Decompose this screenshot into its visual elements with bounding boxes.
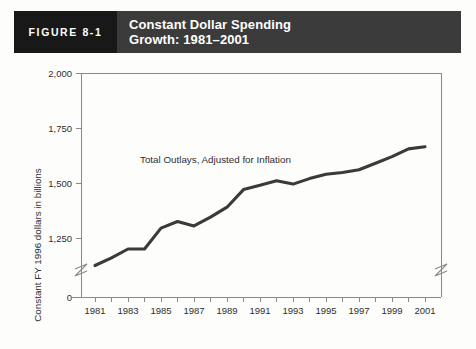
x-tick-label: 1995 — [315, 305, 336, 316]
chart-svg: 1,2501,5001,7502,0000 198119831985198719… — [0, 55, 476, 349]
y-tick-label: 1,500 — [48, 178, 72, 189]
x-tick-label: 1987 — [183, 305, 204, 316]
x-tick-label: 1981 — [84, 305, 105, 316]
figure-number-box: FIGURE 8-1 — [14, 11, 117, 53]
x-tick-label: 1993 — [282, 305, 303, 316]
y-axis-ticks: 1,2501,5001,7502,0000 — [48, 68, 81, 303]
x-tick-label: 1989 — [216, 305, 237, 316]
figure-title-line-2: Growth: 1981–2001 — [129, 32, 461, 47]
x-tick-label: 1997 — [348, 305, 369, 316]
y-axis-title: Constant FY 1996 dollars in billions — [32, 168, 43, 321]
x-axis-ticks: 1981198319851987198919911993199519971999… — [84, 297, 435, 316]
x-tick-label: 1983 — [117, 305, 138, 316]
figure-title-box: Constant Dollar Spending Growth: 1981–20… — [117, 11, 461, 53]
series-annotation-label: Total Outlays, Adjusted for Inflation — [140, 154, 291, 165]
figure-header-banner: FIGURE 8-1 Constant Dollar Spending Grow… — [14, 11, 461, 53]
x-tick-label: 1991 — [249, 305, 270, 316]
x-tick-label: 2001 — [414, 305, 435, 316]
y-tick-label: 1,750 — [48, 123, 72, 134]
axis-break-marks — [75, 264, 447, 276]
line-chart: 1,2501,5001,7502,0000 198119831985198719… — [0, 55, 476, 349]
figure-title-line-1: Constant Dollar Spending — [129, 17, 461, 32]
y-tick-label: 1,250 — [48, 233, 72, 244]
y-tick-label-zero: 0 — [67, 292, 72, 303]
x-tick-label: 1999 — [381, 305, 402, 316]
y-tick-label: 2,000 — [48, 68, 72, 79]
figure-root: FIGURE 8-1 Constant Dollar Spending Grow… — [0, 0, 476, 349]
figure-number-label: FIGURE 8-1 — [29, 26, 103, 38]
x-tick-label: 1985 — [150, 305, 171, 316]
